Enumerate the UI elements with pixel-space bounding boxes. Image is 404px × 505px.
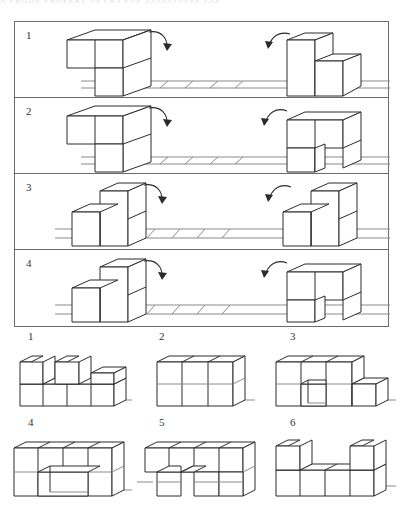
row-1-right-rotation-arrow (265, 33, 290, 49)
answer-option-2-figure (137, 338, 268, 416)
question-row-3[interactable]: 3 (15, 174, 388, 250)
answer-option-1[interactable]: 1 (6, 330, 137, 416)
question-row-2[interactable]: 2 (15, 98, 388, 174)
row-1-right-figure (287, 33, 361, 96)
row-2-right-figure (287, 112, 361, 172)
question-row-4-stage (15, 250, 388, 328)
row-4-right-rotation-arrow (261, 262, 287, 278)
row-1-figure-svg (15, 22, 390, 98)
answer-option-4-figure (6, 424, 137, 505)
question-row-1-stage (15, 22, 388, 97)
row-2-left-rotation-arrow (149, 108, 172, 127)
row-1-left-rotation-arrow (149, 32, 172, 51)
row-2-left-figure (67, 106, 151, 172)
row-1-left-figure (67, 30, 151, 96)
question-row-4[interactable]: 4 (15, 250, 388, 328)
answer-option-3-figure (268, 338, 403, 416)
question-row-2-stage (15, 98, 388, 173)
row-3-right-rotation-arrow (265, 186, 291, 202)
row-4-left-rotation-arrow (144, 261, 167, 280)
answer-option-5-figure (137, 424, 268, 505)
row-4-left-figure (72, 259, 146, 322)
row-3-right-figure (283, 183, 357, 246)
answer-options: 1 (6, 330, 400, 502)
question-row-3-stage (15, 174, 388, 249)
row-3-left-figure (72, 183, 146, 246)
answer-option-6[interactable]: 6 (268, 416, 399, 502)
row-2-right-rotation-arrow (261, 110, 287, 126)
top-cut-text-strip: A PRODE PROPERT SS PRS PSS SSSSSSSSSS SS… (0, 0, 404, 9)
row-3-figure-svg (15, 174, 390, 250)
answer-option-1-figure (6, 338, 137, 416)
answer-option-3[interactable]: 3 (268, 330, 399, 416)
row-3-left-rotation-arrow (144, 185, 167, 204)
answer-option-2[interactable]: 2 (137, 330, 268, 416)
row-4-figure-svg (15, 250, 390, 328)
answer-option-6-figure (268, 424, 403, 505)
row-4-right-figure (287, 264, 361, 322)
question-panel: 1 (14, 21, 389, 327)
row-2-figure-svg (15, 98, 390, 174)
top-cut-text: A PRODE PROPERT SS PRS PSS SSSSSSSSSS SS… (0, 0, 404, 5)
answer-option-5[interactable]: 5 (137, 416, 268, 502)
question-row-1[interactable]: 1 (15, 22, 388, 98)
answer-option-4[interactable]: 4 (6, 416, 137, 502)
